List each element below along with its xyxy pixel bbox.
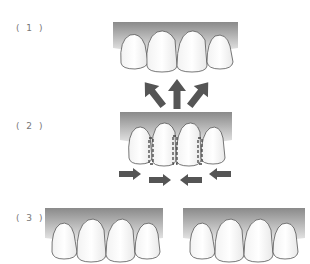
arrow-right-icon — [149, 174, 171, 186]
step-2-teeth — [120, 112, 232, 166]
dental-diagram — [0, 0, 310, 264]
arrow-up-right-icon — [183, 77, 216, 112]
upward-arrows — [138, 77, 216, 112]
arrow-left-icon — [180, 174, 202, 186]
arrow-left-icon — [209, 168, 231, 180]
inward-arrows — [119, 168, 231, 186]
step-3-result-left — [45, 208, 163, 262]
step-1-teeth — [113, 22, 238, 72]
arrow-up-icon — [168, 79, 186, 109]
arrow-up-left-icon — [138, 77, 171, 112]
step-3-result-right — [183, 208, 305, 262]
arrow-right-icon — [119, 168, 141, 180]
tooth-icon — [147, 31, 177, 72]
